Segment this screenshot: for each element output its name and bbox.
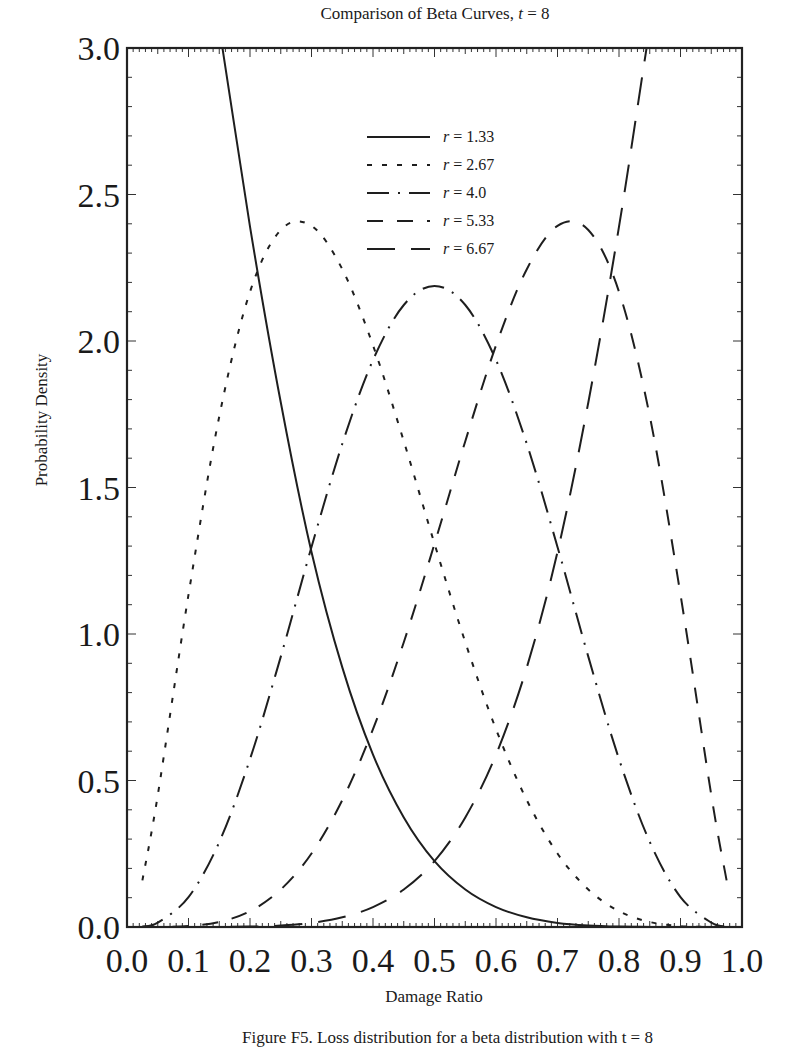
x-tick-label: 0.0 — [106, 942, 149, 979]
x-tick-label: 0.5 — [413, 942, 456, 979]
axis-ticks — [127, 48, 742, 927]
x-tick-label: 1.0 — [721, 942, 764, 979]
y-tick-label: 3.0 — [78, 30, 121, 67]
y-tick-label: 1.0 — [78, 616, 121, 653]
x-tick-labels: 0.00.10.20.30.40.50.60.70.80.91.0 — [106, 942, 764, 979]
x-tick-label: 0.9 — [659, 942, 702, 979]
x-tick-label: 0.6 — [475, 942, 518, 979]
legend-label-6-67: r = 6.67 — [443, 240, 494, 257]
y-axis-label: Probability Density — [32, 354, 52, 487]
y-tick-label: 1.5 — [78, 470, 121, 507]
y-tick-label: 2.0 — [78, 323, 121, 360]
curve-2-67 — [142, 221, 726, 927]
x-tick-label: 0.7 — [536, 942, 579, 979]
curve-1-33 — [142, 0, 726, 927]
curve-4-0 — [142, 286, 726, 927]
x-tick-label: 0.3 — [290, 942, 333, 979]
x-tick-label: 0.2 — [229, 942, 272, 979]
x-tick-label: 0.1 — [167, 942, 210, 979]
legend-label-4-0: r = 4.0 — [443, 184, 486, 201]
y-tick-label: 0.5 — [78, 763, 121, 800]
y-tick-label: 0.0 — [78, 909, 121, 946]
legend-label-5-33: r = 5.33 — [443, 212, 494, 229]
x-axis-label: Damage Ratio — [385, 987, 483, 1007]
plot-frame — [127, 48, 742, 927]
figure-caption: Figure F5. Loss distribution for a beta … — [242, 1028, 653, 1048]
x-tick-label: 0.8 — [598, 942, 641, 979]
x-tick-label: 0.4 — [352, 942, 395, 979]
curves — [142, 0, 726, 927]
legend: r = 1.33r = 2.67r = 4.0r = 5.33r = 6.67 — [367, 128, 494, 257]
y-tick-labels: 0.00.51.01.52.02.53.0 — [78, 30, 121, 946]
curve-5-33 — [142, 221, 726, 927]
legend-label-1-33: r = 1.33 — [443, 128, 494, 145]
legend-label-2-67: r = 2.67 — [443, 156, 494, 173]
curve-6-67 — [142, 0, 726, 927]
y-tick-label: 2.5 — [78, 177, 121, 214]
